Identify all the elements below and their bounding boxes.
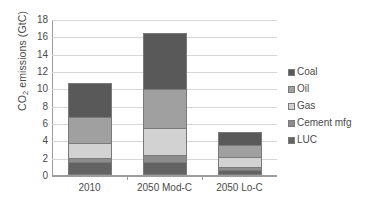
y-axis-tick-label: 14 [22,50,48,60]
y-axis-tick-label: 10 [22,84,48,94]
bar-segment-luc[interactable] [68,162,112,175]
bar-segment-oil[interactable] [218,145,262,157]
legend-item[interactable]: Gas [288,98,366,114]
bar-segment-gas[interactable] [68,143,112,158]
legend-item[interactable]: Oil [288,81,366,97]
bar-segment-cement-mfg[interactable] [218,167,262,170]
y-axis-tick-label: 16 [22,32,48,42]
y-axis-tick-label: 0 [22,171,48,181]
bar-segment-coal[interactable] [218,132,262,145]
bar-segment-cement-mfg[interactable] [143,155,187,162]
bar-segment-coal[interactable] [143,33,187,89]
x-axis-category-label: 2050 Mod-C [127,182,202,193]
x-axis-category-label: 2010 [52,182,127,193]
legend-swatch-icon [288,86,295,93]
bar-segment-luc[interactable] [143,162,187,175]
bar-segment-oil[interactable] [143,89,187,128]
y-axis-tick-label: 2 [22,154,48,164]
bar-stack[interactable] [218,19,262,175]
legend-label: LUC [297,135,317,145]
legend-swatch-icon [288,120,295,127]
legend-label: Coal [297,67,318,77]
gridline [52,176,277,177]
bar-segment-gas[interactable] [218,157,262,167]
y-axis-tick-label: 12 [22,67,48,77]
legend-item[interactable]: LUC [288,132,366,148]
stacked-bar-chart: CO2 emissions (GtC) 181614121086420 2010… [0,0,367,208]
legend-label: Cement mfg [297,118,351,128]
y-axis-tick-label: 8 [22,102,48,112]
bar-segment-oil[interactable] [68,117,112,143]
bar-stack[interactable] [143,19,187,175]
y-axis-tick-label: 6 [22,119,48,129]
bar-stack[interactable] [68,19,112,175]
y-axis-tick-labels: 181614121086420 [22,20,48,176]
legend-item[interactable]: Coal [288,64,366,80]
y-axis-line [52,20,53,176]
y-axis-tick-label: 4 [22,136,48,146]
x-axis-tick-mark [202,176,203,180]
x-axis-category-labels: 20102050 Mod-C2050 Lo-C [52,182,277,198]
legend-label: Oil [297,84,309,94]
x-axis-category-label: 2050 Lo-C [202,182,277,193]
plot-area [52,20,277,176]
legend-label: Gas [297,101,315,111]
bar-segment-gas[interactable] [143,128,187,154]
chart-legend: CoalOilGasCement mfgLUC [288,64,366,149]
y-axis-tick-label: 18 [22,15,48,25]
legend-swatch-icon [288,69,295,76]
legend-swatch-icon [288,103,295,110]
bar-segment-coal[interactable] [68,83,112,117]
x-axis-tick-mark [127,176,128,180]
bar-segment-luc[interactable] [218,170,262,175]
legend-swatch-icon [288,137,295,144]
bar-segment-cement-mfg[interactable] [68,158,112,162]
legend-item[interactable]: Cement mfg [288,115,366,131]
